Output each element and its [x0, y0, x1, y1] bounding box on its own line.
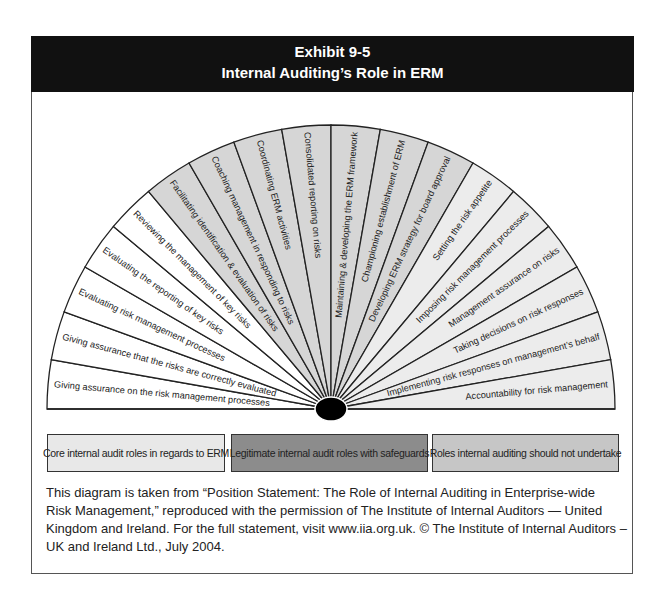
legend-core: Core internal audit roles in regards to … — [47, 434, 225, 472]
caption-line: This diagram is taken from “Position Sta… — [46, 484, 616, 502]
legend-not-undertake-label: Roles internal auditing should not under… — [430, 447, 622, 459]
legend-core-label: Core internal audit roles in regards to … — [43, 447, 229, 459]
caption-line: UK and Ireland Ltd., July 2004. — [46, 538, 616, 556]
source-caption: This diagram is taken from “Position Sta… — [46, 484, 616, 556]
legend-not-undertake: Roles internal auditing should not under… — [432, 434, 619, 472]
hub-dot — [315, 397, 347, 421]
legend-legitimate: Legitimate internal audit roles with saf… — [231, 434, 428, 472]
caption-line: Risk Management,” reproduced with the pe… — [46, 502, 616, 520]
legend-legitimate-label: Legitimate internal audit roles with saf… — [230, 447, 430, 459]
caption-line: Kingdom and Ireland. For the full statem… — [46, 520, 616, 538]
